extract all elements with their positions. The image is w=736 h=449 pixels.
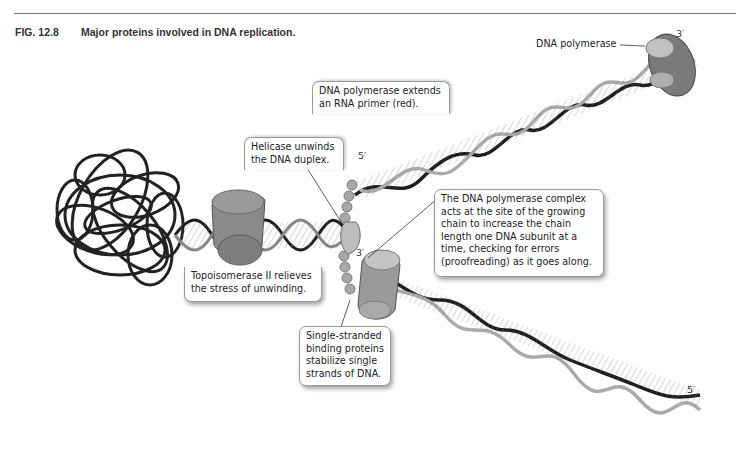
lagging-3prime-label: 3′ bbox=[356, 247, 364, 258]
bottom-5prime-label: 5′ bbox=[687, 384, 695, 395]
polymerase-leader-line bbox=[620, 45, 645, 46]
primer-callout: DNA polymerase extends an RNA primer (re… bbox=[312, 81, 450, 114]
polymerase-complex-callout: The DNA polymerase complex acts at the s… bbox=[434, 189, 604, 277]
topoisomerase-protein bbox=[212, 190, 265, 265]
topoisomerase-callout: Topoisomerase II relieves the stress of … bbox=[184, 267, 322, 302]
lower-helix bbox=[370, 270, 700, 413]
dna-polymerase-complex bbox=[358, 250, 400, 319]
dna-polymerase-label: DNA polymerase bbox=[536, 38, 616, 49]
chromatin-tangle bbox=[50, 137, 185, 285]
top-5prime-label: 5′ bbox=[358, 150, 366, 161]
ssb-callout: Single-stranded binding proteins stabili… bbox=[299, 326, 391, 386]
dna-polymerase-top bbox=[640, 27, 703, 102]
top-3prime-label: 3′ bbox=[676, 28, 684, 39]
upper-helix bbox=[355, 57, 695, 195]
helicase-callout: Helicase unwinds the DNA duplex. bbox=[244, 137, 344, 170]
